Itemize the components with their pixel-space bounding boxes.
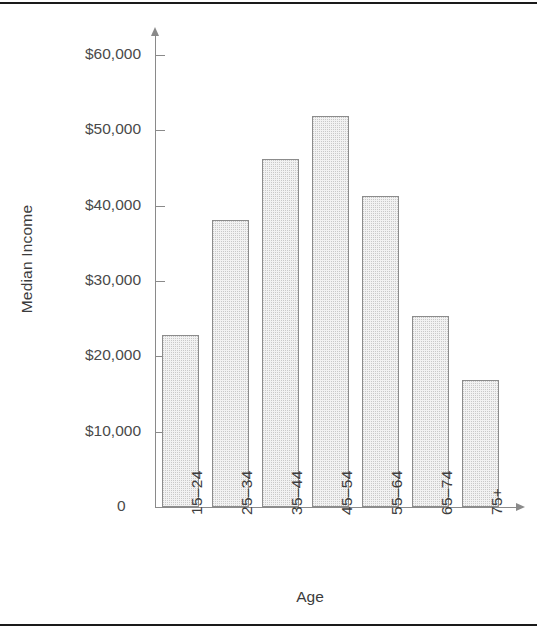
x-axis-tick-label: 15–24	[188, 470, 206, 515]
y-axis-tick-label: $40,000	[85, 196, 141, 214]
y-axis-tick: $40,000	[155, 206, 165, 207]
y-axis-tick-label: $60,000	[85, 45, 141, 63]
bar	[312, 116, 349, 507]
x-axis-line	[155, 507, 517, 508]
x-axis-arrowhead	[516, 503, 525, 511]
y-axis-arrowhead	[151, 27, 159, 36]
bar-chart-figure: Median Income Age 0 $10,000$20,000$30,00…	[0, 10, 537, 620]
y-axis-tick-mark	[156, 130, 165, 131]
y-axis-line	[155, 35, 156, 507]
y-axis-tick-label: $50,000	[85, 120, 141, 138]
y-axis-tick-label: $20,000	[85, 346, 141, 364]
bar	[212, 220, 249, 507]
bar	[262, 159, 299, 507]
y-axis-tick-mark	[156, 206, 165, 207]
y-axis-tick-label: $10,000	[85, 422, 141, 440]
bar	[362, 196, 399, 507]
y-axis-title: Median Income	[18, 159, 36, 359]
plot-area: 0 $10,000$20,000$30,000$40,000$50,000$60…	[155, 27, 525, 507]
y-axis-tick-label: $30,000	[85, 271, 141, 289]
x-axis-tick-label: 55–64	[388, 470, 406, 515]
y-axis-tick: $30,000	[155, 281, 165, 282]
chart-page: Median Income Age 0 $10,000$20,000$30,00…	[0, 0, 537, 642]
page-bottom-rule	[0, 624, 537, 626]
y-axis-origin-label: 0	[117, 497, 126, 515]
y-axis-tick: $50,000	[155, 130, 165, 131]
y-axis-tick-mark	[156, 281, 165, 282]
x-axis-tick-label: 65–74	[438, 470, 456, 515]
x-axis-title: Age	[160, 588, 460, 606]
x-axis-tick-label: 45–54	[338, 470, 356, 515]
x-axis-tick-label: 35–44	[288, 470, 306, 515]
x-axis-tick-label: 75+	[488, 488, 506, 515]
y-axis-tick: $60,000	[155, 55, 165, 56]
y-axis-tick-mark	[156, 55, 165, 56]
x-axis-tick-label: 25–34	[238, 470, 256, 515]
page-top-rule	[0, 2, 537, 4]
